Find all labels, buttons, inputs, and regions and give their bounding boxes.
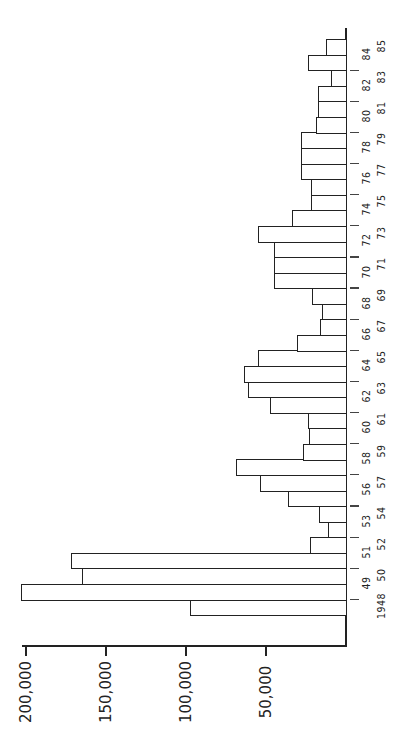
category-separator-tick [350, 599, 359, 600]
year-label: 80 [360, 99, 372, 133]
category-separator-tick [350, 194, 359, 195]
bar-64 [244, 366, 347, 383]
year-label: 79 [375, 122, 387, 156]
category-separator-tick [350, 350, 359, 351]
bar-80 [316, 117, 347, 134]
bar-50 [82, 568, 347, 585]
year-label: 57 [375, 465, 387, 499]
bar-61 [308, 413, 347, 430]
bar-69 [312, 288, 347, 305]
year-label: 56 [360, 472, 372, 506]
bar-66 [297, 335, 347, 352]
year-label: 60 [360, 410, 372, 444]
bar-62 [270, 397, 347, 414]
category-separator-tick [350, 132, 359, 133]
year-label: 66 [360, 317, 372, 351]
year-label: 64 [360, 348, 372, 382]
year-label: 54 [375, 496, 387, 530]
bar-57 [260, 475, 347, 492]
bar-74 [292, 210, 347, 227]
bar-56 [288, 490, 347, 507]
bar-85 [326, 39, 347, 56]
year-label: 51 [360, 535, 372, 569]
category-separator-tick [350, 568, 359, 569]
year-label: 78 [360, 130, 372, 164]
year-label: 67 [375, 309, 387, 343]
bar-71 [274, 257, 347, 274]
value-axis-label: 200,000 [17, 652, 35, 732]
year-label: 74 [360, 192, 372, 226]
bar-53 [328, 522, 347, 539]
bar-49 [21, 584, 347, 601]
bar-58 [236, 459, 347, 476]
year-label: 63 [375, 371, 387, 405]
year-label: 77 [375, 153, 387, 187]
category-separator-tick [350, 381, 359, 382]
year-label: 49 [360, 566, 372, 600]
bar-52 [310, 537, 347, 554]
bar-51 [71, 553, 347, 570]
bar-54 [319, 506, 347, 523]
year-label: 84 [360, 37, 372, 71]
category-separator-tick [350, 505, 359, 506]
bar-83 [331, 70, 347, 87]
year-label: 61 [375, 402, 387, 436]
year-label: 53 [360, 504, 372, 538]
bar-82 [318, 86, 347, 103]
category-separator-tick [350, 225, 359, 226]
year-label: 59 [375, 434, 387, 468]
bar-77 [301, 164, 347, 181]
year-label: 70 [360, 255, 372, 289]
year-label: 65 [375, 340, 387, 374]
bar-60 [309, 428, 347, 445]
category-separator-tick [350, 537, 359, 538]
year-label: 83 [375, 60, 387, 94]
bar-75 [311, 195, 347, 212]
bar-63 [248, 381, 347, 398]
year-label: 62 [360, 379, 372, 413]
bar-84 [308, 55, 347, 72]
year-label: 73 [375, 216, 387, 250]
value-axis-label: 150,000 [97, 652, 115, 732]
year-label: 82 [360, 68, 372, 102]
category-separator-tick [350, 443, 359, 444]
value-axis-label: 50,000 [257, 652, 275, 732]
year-label: 72 [360, 223, 372, 257]
bar-chart: 200,000150,000100,00050,000 194849505152… [0, 0, 411, 735]
category-separator-tick [350, 70, 359, 71]
category-separator-tick [350, 412, 359, 413]
bar-67 [320, 319, 347, 336]
year-label: 85 [375, 29, 387, 63]
year-label: 50 [375, 558, 387, 592]
bar-65 [258, 350, 347, 367]
category-separator-tick [350, 474, 359, 475]
category-separator-tick [350, 319, 359, 320]
year-label: 1948 [375, 589, 387, 623]
category-separator-tick [350, 101, 359, 102]
year-label: 81 [375, 91, 387, 125]
bar-73 [258, 226, 347, 243]
bar-59 [303, 444, 347, 461]
bar-79 [301, 132, 347, 149]
bar-78 [301, 148, 347, 165]
year-label: 71 [375, 247, 387, 281]
bar-72 [274, 241, 347, 258]
bar-70 [274, 273, 347, 290]
year-label: 76 [360, 161, 372, 195]
year-label: 58 [360, 441, 372, 475]
category-separator-tick [350, 287, 359, 288]
bar-68 [322, 304, 347, 321]
bar-81 [318, 101, 347, 118]
year-label: 52 [375, 527, 387, 561]
year-label: 75 [375, 184, 387, 218]
value-axis-label: 100,000 [177, 652, 195, 732]
year-label: 68 [360, 286, 372, 320]
bar-76 [311, 179, 347, 196]
category-separator-tick [350, 256, 359, 257]
category-separator-tick [350, 163, 359, 164]
year-label: 69 [375, 278, 387, 312]
bar-1948 [190, 599, 347, 616]
